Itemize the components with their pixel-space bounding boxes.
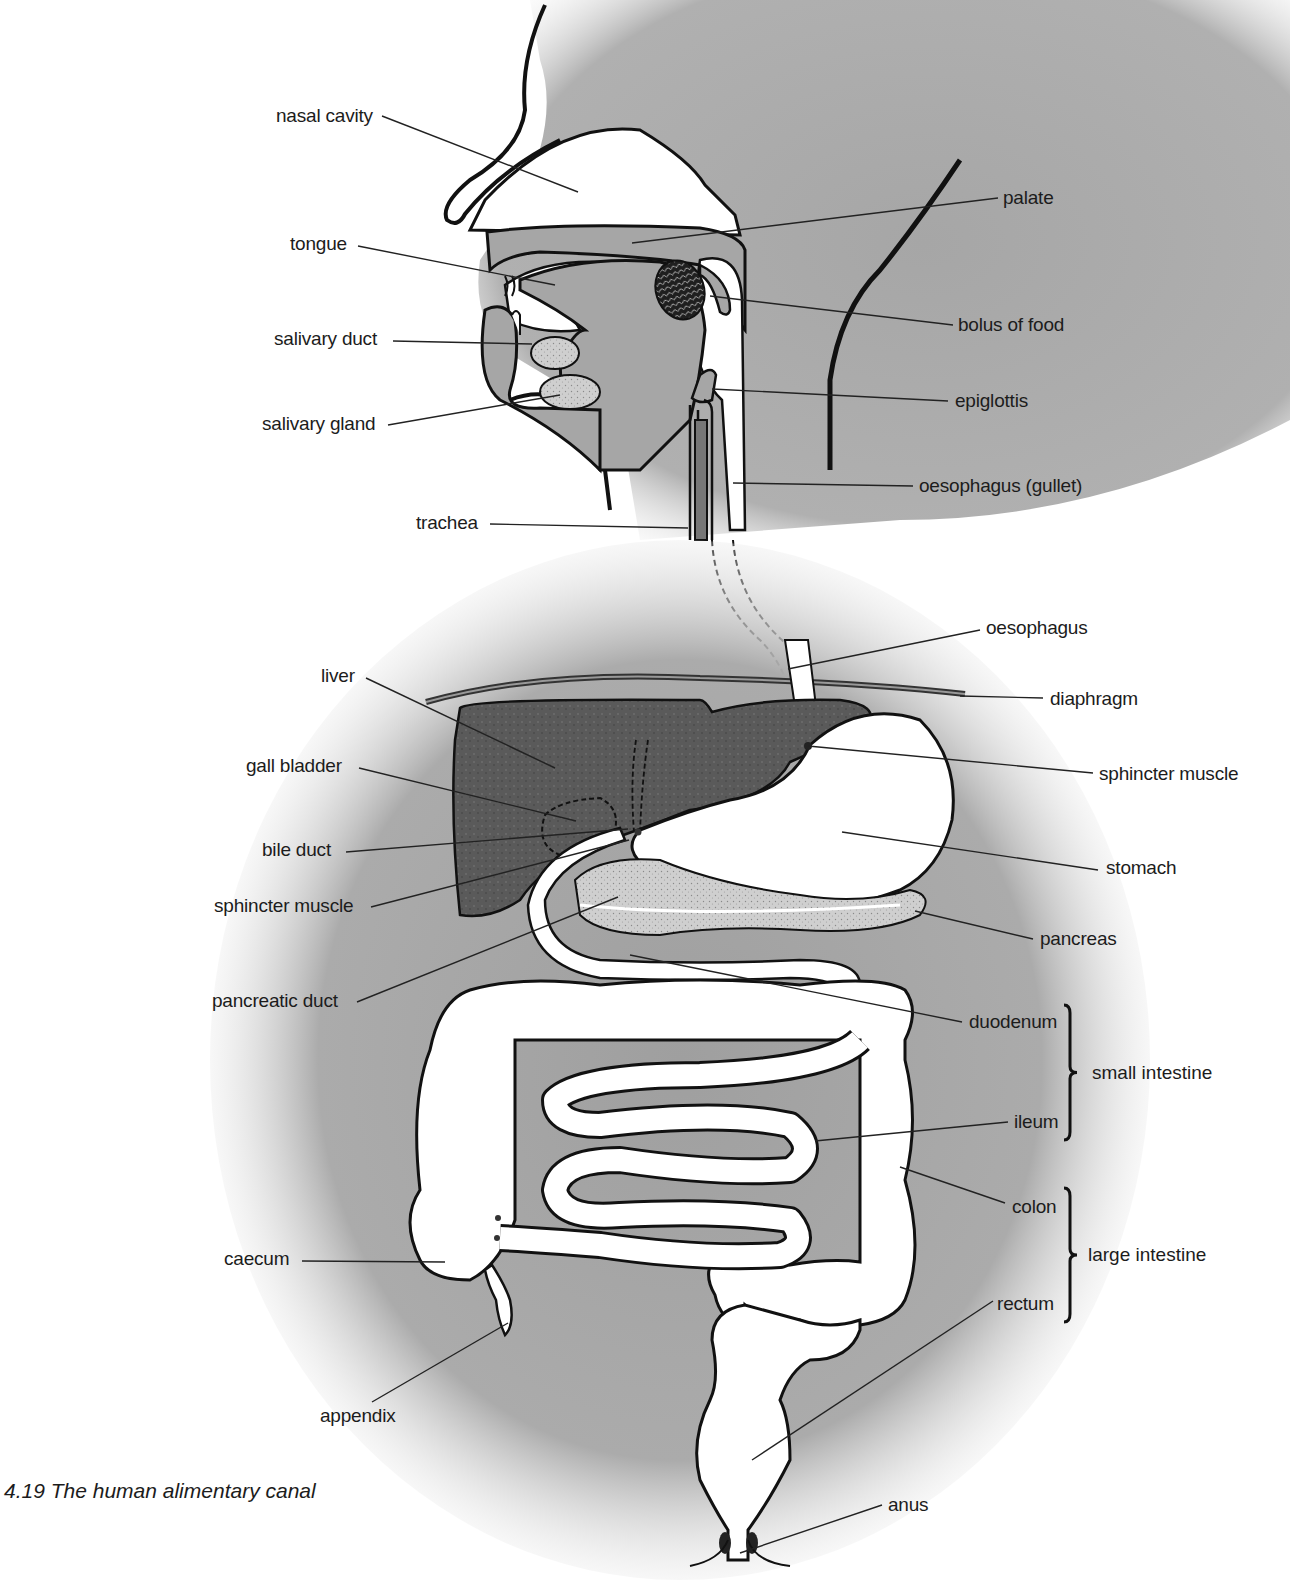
label-colon: colon [1012,1196,1056,1218]
label-oesophagus-gullet: oesophagus (gullet) [919,475,1082,497]
ileocaecal-valve-bottom [494,1235,500,1241]
label-epiglottis: epiglottis [955,390,1028,412]
label-nasal-cavity: nasal cavity [276,105,373,127]
label-bolus-of-food: bolus of food [958,314,1064,336]
sphincter-pyloric [635,829,642,836]
leader-line-caecum [302,1261,445,1262]
label-liver: liver [321,665,355,687]
group-label-small-intestine: small intestine [1092,1062,1212,1084]
salivary-gland-lower [540,375,600,409]
trachea-lumen [695,420,707,540]
label-salivary-gland: salivary gland [262,413,375,435]
label-rectum: rectum [997,1293,1054,1315]
label-palate: palate [1003,187,1054,209]
label-sphincter-muscle-lower: sphincter muscle [214,895,353,917]
figure-caption: 4.19 The human alimentary canal [4,1479,316,1503]
label-trachea: trachea [416,512,478,534]
label-salivary-duct: salivary duct [274,328,377,350]
label-bile-duct: bile duct [262,839,331,861]
label-caecum: caecum [224,1248,289,1270]
label-sphincter-muscle-upper: sphincter muscle [1099,763,1238,785]
head-section [446,0,1290,540]
label-stomach: stomach [1106,857,1176,879]
label-diaphragm: diaphragm [1050,688,1138,710]
label-ileum: ileum [1014,1111,1058,1133]
alimentary-canal-diagram [0,0,1290,1591]
label-duodenum: duodenum [969,1011,1057,1033]
label-pancreas: pancreas [1040,928,1117,950]
label-pancreatic-duct: pancreatic duct [212,990,338,1012]
label-appendix: appendix [320,1405,396,1427]
label-tongue: tongue [290,233,347,255]
label-anus: anus [888,1494,928,1516]
group-label-large-intestine: large intestine [1088,1244,1206,1266]
salivary-gland-upper [531,337,579,369]
label-oesophagus: oesophagus [986,617,1088,639]
label-gall-bladder: gall bladder [246,755,342,777]
ileocaecal-valve-top [495,1215,501,1221]
